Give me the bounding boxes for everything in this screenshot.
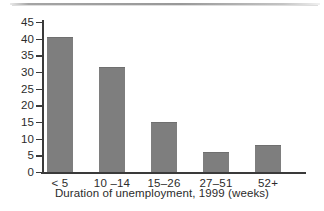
y-tick-mark bbox=[36, 55, 42, 56]
y-tick-mark bbox=[36, 139, 42, 140]
y-tick-label: 0 bbox=[28, 167, 35, 179]
y-tick-mark bbox=[36, 39, 42, 40]
bar bbox=[151, 122, 177, 172]
chart-figure: 051015202530354045 < 510 –1415–2627–5152… bbox=[0, 0, 324, 211]
bar bbox=[99, 67, 125, 172]
y-tick-label: 20 bbox=[21, 101, 34, 113]
y-tick-mark bbox=[36, 155, 42, 156]
y-tick-label: 15 bbox=[21, 117, 34, 129]
y-tick-mark bbox=[36, 122, 42, 123]
y-tick-label: 5 bbox=[28, 151, 35, 163]
y-tick-mark bbox=[36, 89, 42, 90]
y-tick-label: 10 bbox=[21, 134, 34, 146]
y-tick-label: 35 bbox=[21, 51, 34, 63]
y-tick-label: 30 bbox=[21, 67, 34, 79]
y-tick-mark bbox=[36, 172, 42, 173]
y-tick-label: 25 bbox=[21, 84, 34, 96]
y-tick-mark bbox=[36, 72, 42, 73]
y-tick-label: 40 bbox=[21, 34, 34, 46]
x-axis-line bbox=[41, 172, 306, 174]
y-tick-mark bbox=[36, 22, 42, 23]
scan-artifact-line-secondary bbox=[12, 5, 318, 6]
bar bbox=[47, 37, 73, 172]
y-axis-line bbox=[42, 20, 44, 173]
y-tick-mark bbox=[36, 105, 42, 106]
x-axis-title: Duration of unemployment, 1999 (weeks) bbox=[0, 188, 324, 200]
bar bbox=[255, 145, 281, 172]
plot-area: 051015202530354045 < 510 –1415–2627–5152… bbox=[42, 22, 306, 172]
bar bbox=[203, 152, 229, 172]
y-tick-label: 45 bbox=[21, 17, 34, 29]
